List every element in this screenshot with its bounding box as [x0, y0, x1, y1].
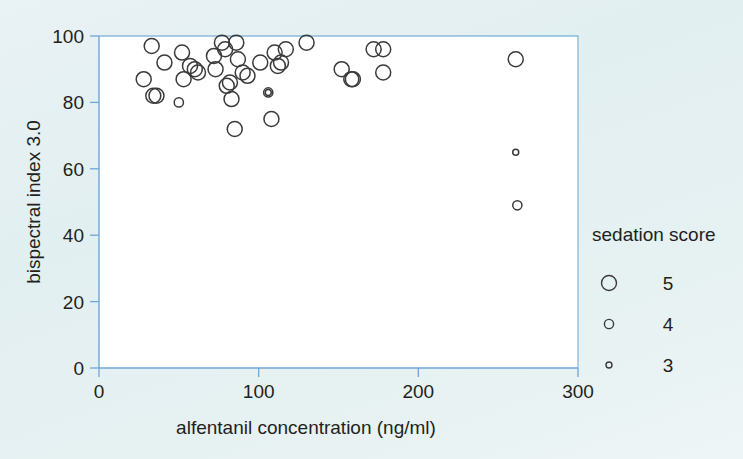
- legend: sedation score 543: [592, 224, 716, 376]
- legend-marker-4: [604, 319, 613, 328]
- x-tick-label-100: 100: [243, 381, 275, 402]
- legend-title: sedation score: [592, 224, 716, 245]
- legend-label-3: 3: [663, 355, 674, 376]
- x-axis-ticks: [99, 368, 578, 377]
- y-tick-label-60: 60: [63, 159, 84, 180]
- y-axis-title: bispectral index 3.0: [23, 120, 44, 284]
- y-axis-ticks: [90, 36, 99, 368]
- y-tick-label-80: 80: [63, 92, 84, 113]
- y-tick-label-100: 100: [52, 26, 84, 47]
- legend-label-5: 5: [663, 273, 674, 294]
- legend-label-4: 4: [663, 314, 674, 335]
- y-axis-tick-labels: 020406080100: [52, 26, 84, 379]
- x-tick-label-200: 200: [402, 381, 434, 402]
- x-axis-title: alfentanil concentration (ng/ml): [176, 417, 436, 438]
- legend-marker-5: [602, 276, 617, 291]
- legend-entries: 543: [602, 273, 674, 376]
- y-tick-label-20: 20: [63, 292, 84, 313]
- x-axis-tick-labels: 0100200300: [94, 381, 594, 402]
- plot-area-background: [99, 36, 578, 368]
- chart-canvas: 020406080100 0100200300 alfentanil conce…: [0, 0, 743, 459]
- legend-marker-3: [606, 362, 612, 368]
- scatter-plot-figure: 020406080100 0100200300 alfentanil conce…: [0, 0, 743, 459]
- x-tick-label-300: 300: [562, 381, 594, 402]
- y-tick-label-0: 0: [73, 358, 84, 379]
- y-tick-label-40: 40: [63, 225, 84, 246]
- x-tick-label-0: 0: [94, 381, 105, 402]
